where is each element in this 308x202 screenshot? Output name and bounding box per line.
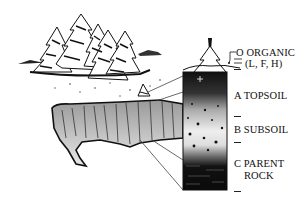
- conifer-trees: [33, 14, 140, 80]
- horizon-tick-c-bottom: [234, 191, 241, 192]
- small-tree: [138, 84, 150, 96]
- label-o-subhorizons: (L, F, H): [245, 58, 282, 69]
- hillside-cutaway: [52, 100, 183, 166]
- horizon-tick-bc: [234, 142, 241, 143]
- o-bracket: [229, 52, 236, 63]
- label-c-parent: C PARENT: [234, 158, 284, 169]
- horizon-tick-ab: [234, 116, 241, 117]
- horizon-tick-a-top: [234, 69, 241, 70]
- label-b-subsoil: B SUBSOIL: [234, 124, 288, 135]
- label-o-organic: O ORGANIC: [236, 47, 295, 58]
- soil-profile-diagram: O ORGANIC (L, F, H) A TOPSOIL B SUBSOIL …: [0, 0, 308, 202]
- o-ticks: [234, 59, 242, 63]
- label-a-topsoil: A TOPSOIL: [234, 90, 287, 101]
- label-c-rock: ROCK: [244, 170, 274, 181]
- soil-column: [183, 72, 227, 190]
- column-top-tree: [183, 38, 240, 72]
